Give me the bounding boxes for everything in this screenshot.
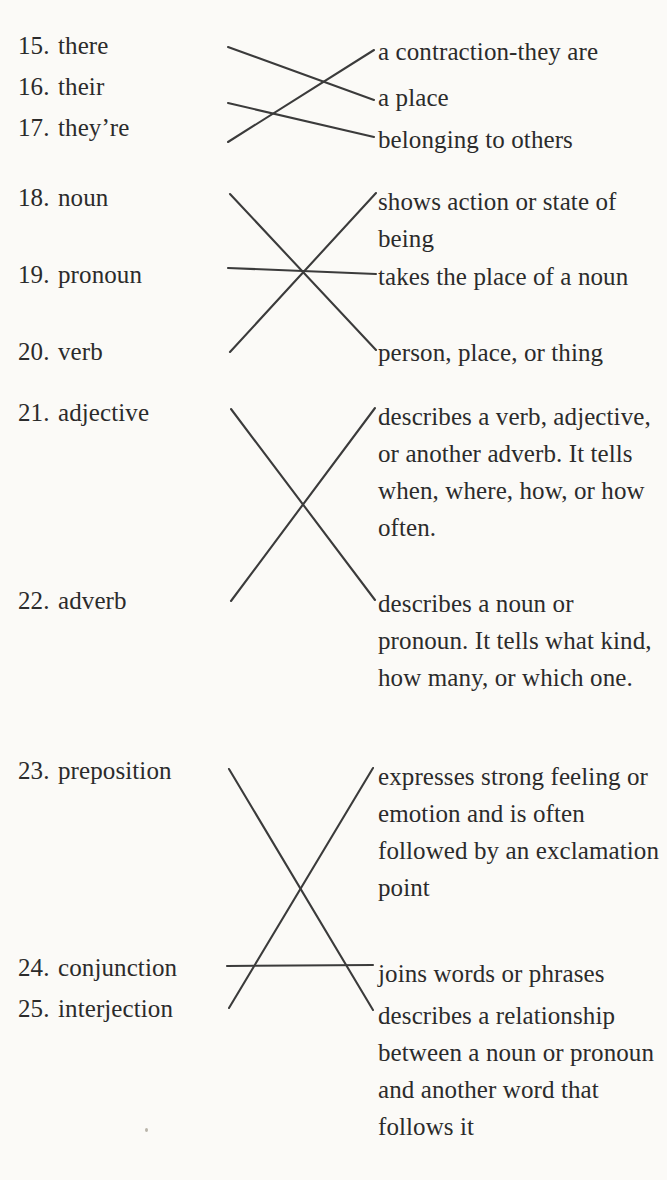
connector-line (227, 965, 373, 966)
definition-item: belonging to others (378, 121, 664, 158)
term-item: 18.noun (18, 185, 108, 210)
connector-line (228, 268, 376, 274)
definition-item: takes the place of a noun (378, 258, 664, 295)
worksheet-page: 15.there 16.their 17.they’re a contracti… (0, 0, 667, 1180)
definition-item: a place (378, 79, 664, 116)
definition-item: joins words or phrases (378, 955, 664, 992)
definition-item: expresses strong feeling or emotion and … (378, 758, 664, 906)
definition-item: describes a verb, adjective, or another … (378, 398, 664, 546)
term-number: 24. (18, 955, 58, 980)
definition-item: describes a noun or pronoun. It tells wh… (378, 585, 664, 696)
term-label: their (58, 73, 104, 100)
term-label: pronoun (58, 261, 142, 288)
term-number: 16. (18, 74, 58, 99)
term-item: 25.interjection (18, 996, 173, 1021)
term-number: 21. (18, 400, 58, 425)
connector-line (229, 768, 373, 1008)
connector-line (231, 408, 375, 601)
term-number: 18. (18, 185, 58, 210)
term-item: 19.pronoun (18, 262, 142, 287)
term-item: 15.there (18, 33, 108, 58)
term-label: adverb (58, 587, 127, 614)
connector-line (228, 103, 374, 137)
definition-item: person, place, or thing (378, 334, 664, 371)
term-item: 20.verb (18, 339, 103, 364)
scan-speck (145, 1128, 148, 1132)
term-item: 24.conjunction (18, 955, 177, 980)
term-label: interjection (58, 995, 173, 1022)
term-item: 23.preposition (18, 758, 172, 783)
term-number: 22. (18, 588, 58, 613)
term-number: 23. (18, 758, 58, 783)
definition-item: shows action or state of being (378, 183, 664, 257)
term-item: 21.adjective (18, 400, 149, 425)
term-label: preposition (58, 757, 172, 784)
connector-group-3 (231, 408, 375, 601)
connector-line (228, 47, 374, 100)
connector-line (230, 193, 376, 352)
term-number: 17. (18, 115, 58, 140)
connector-line (231, 409, 375, 600)
term-label: verb (58, 338, 103, 365)
term-item: 17.they’re (18, 115, 130, 140)
term-label: noun (58, 184, 108, 211)
term-number: 20. (18, 339, 58, 364)
term-item: 22.adverb (18, 588, 127, 613)
term-number: 19. (18, 262, 58, 287)
connector-group-4 (227, 768, 373, 1010)
connector-group-1 (228, 47, 374, 142)
connector-line (228, 50, 374, 142)
term-item: 16.their (18, 74, 104, 99)
term-number: 15. (18, 33, 58, 58)
definition-item: describes a relationship between a noun … (378, 997, 664, 1145)
term-label: there (58, 32, 108, 59)
connector-line (229, 769, 373, 1010)
definition-item: a contraction-they are (378, 33, 664, 70)
term-label: conjunction (58, 954, 177, 981)
connector-line (230, 194, 376, 350)
term-label: they’re (58, 114, 130, 141)
connector-group-2 (228, 193, 376, 352)
term-label: adjective (58, 399, 149, 426)
term-number: 25. (18, 996, 58, 1021)
